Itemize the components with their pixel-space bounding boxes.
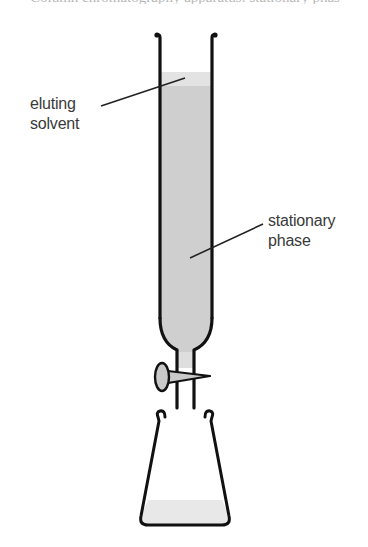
label-line: eluting (30, 94, 79, 114)
chromatography-diagram (0, 0, 368, 547)
column-lip-left (154, 32, 159, 37)
column-contents (161, 72, 211, 368)
stationary-phase-fill (161, 82, 211, 368)
label-line: solvent (30, 114, 79, 134)
stationary-phase-label: stationary phase (268, 211, 335, 251)
label-line: stationary (268, 211, 335, 231)
column-lip-right (212, 32, 217, 37)
conical-flask (139, 411, 231, 525)
eluting-solvent-label: eluting solvent (30, 94, 79, 134)
label-line: phase (268, 231, 335, 251)
flask-liquid (139, 500, 231, 525)
